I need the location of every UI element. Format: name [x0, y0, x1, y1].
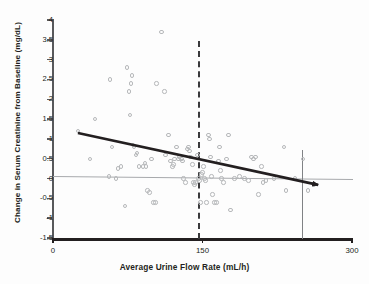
x-axis-title: Average Urine Flow Rate (mL/h): [0, 262, 369, 272]
trend-line-layer: [0, 0, 369, 284]
regression-trend-line: [78, 133, 318, 185]
scatter-chart: Change in Serum Creatinine from Baseline…: [0, 0, 369, 284]
